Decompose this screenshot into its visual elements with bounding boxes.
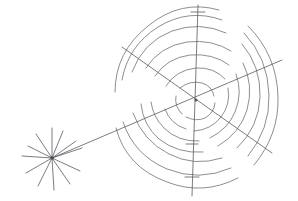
- line-drawing-figure: [0, 0, 298, 201]
- star-center-node: [50, 156, 54, 160]
- sketch-canvas: [0, 0, 298, 201]
- figure-background: [0, 0, 298, 201]
- spiral-center-node: [195, 99, 198, 102]
